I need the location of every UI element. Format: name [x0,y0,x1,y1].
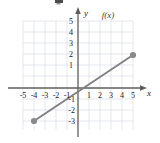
ytick-label--2: -2 [68,106,75,115]
xtick-label-2: 2 [98,91,102,100]
ytick-label-2: 2 [69,50,73,59]
xtick-label-3: 3 [109,91,113,100]
xtick-label--2: -2 [53,91,60,100]
function-label: f(x) [102,10,115,20]
x-axis-label: x [146,88,151,98]
xtick-label-1: 1 [87,91,91,100]
ytick-label-5: 5 [69,17,73,26]
ytick-label--3: -3 [68,117,75,126]
endpoint-dot-right [130,52,136,58]
xtick-label--3: -3 [42,91,49,100]
xtick-label--5: -5 [20,91,27,100]
coordinate-plane-chart: -5 -4 -3 -2 -1 1 2 3 4 5 5 4 3 2 1 -1 -2… [0,0,160,143]
ytick-label-3: 3 [69,39,73,48]
xtick-label--4: -4 [31,91,38,100]
cropped-top-fragment [55,0,63,5]
endpoint-dot-left [31,118,37,124]
y-axis-label: y [83,8,88,18]
xtick-label-5: 5 [131,91,135,100]
ytick-label-4: 4 [69,28,73,37]
ytick-label-1: 1 [69,61,73,70]
ytick-label--1: -1 [68,95,75,104]
graph-figure: -5 -4 -3 -2 -1 1 2 3 4 5 5 4 3 2 1 -1 -2… [0,0,160,143]
xtick-label-4: 4 [120,91,124,100]
y-axis [75,7,81,137]
